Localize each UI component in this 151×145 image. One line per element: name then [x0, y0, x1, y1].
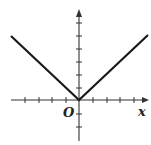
absolute-value-graph: O x	[0, 0, 151, 145]
x-axis-label: x	[137, 104, 146, 119]
origin-label: O	[63, 105, 75, 120]
y-axis	[76, 9, 82, 141]
y-axis-arrow-icon	[76, 9, 82, 17]
x-axis-arrow-icon	[142, 97, 149, 103]
